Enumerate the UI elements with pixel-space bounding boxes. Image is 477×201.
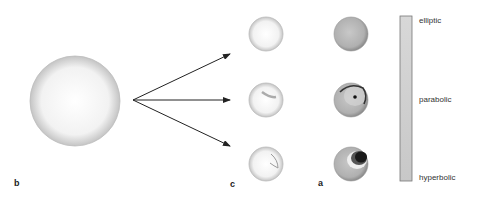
large-sphere xyxy=(30,56,120,146)
sphere-c-middle xyxy=(249,83,283,117)
sphere-c-bottom xyxy=(249,147,283,181)
sphere-a-middle xyxy=(334,83,368,117)
label-parabolic: parabolic xyxy=(419,95,451,104)
figure-canvas xyxy=(0,0,477,201)
panel-label-c: c xyxy=(230,179,235,189)
panel-label-b: b xyxy=(14,178,20,188)
panel-label-a: a xyxy=(318,178,323,188)
sphere-a-bottom xyxy=(334,147,368,181)
sphere-a-top xyxy=(334,17,368,51)
sphere-c-top xyxy=(249,17,283,51)
label-elliptic: elliptic xyxy=(419,16,441,25)
curvature-scale-bar xyxy=(400,16,412,181)
arrows xyxy=(133,54,230,146)
label-hyperbolic: hyperbolic xyxy=(419,173,455,182)
